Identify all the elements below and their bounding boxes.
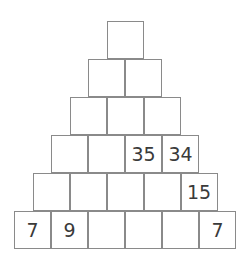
pyramid-cell[interactable] bbox=[144, 97, 181, 135]
pyramid-cell[interactable] bbox=[88, 59, 125, 97]
pyramid-cell[interactable] bbox=[88, 135, 125, 173]
pyramid-cell[interactable] bbox=[51, 135, 88, 173]
pyramid-cell[interactable] bbox=[88, 211, 125, 249]
pyramid-cell[interactable]: 7 bbox=[199, 211, 236, 249]
pyramid-cell[interactable] bbox=[107, 97, 144, 135]
number-pyramid: 353415797 bbox=[0, 0, 249, 265]
pyramid-cell[interactable] bbox=[125, 59, 162, 97]
pyramid-cell[interactable] bbox=[144, 173, 181, 211]
pyramid-cell[interactable]: 7 bbox=[14, 211, 51, 249]
pyramid-cell[interactable]: 15 bbox=[181, 173, 218, 211]
pyramid-cell[interactable] bbox=[70, 97, 107, 135]
pyramid-cell[interactable] bbox=[125, 211, 162, 249]
pyramid-cell[interactable]: 35 bbox=[125, 135, 162, 173]
pyramid-cell[interactable]: 34 bbox=[162, 135, 199, 173]
pyramid-cell[interactable] bbox=[70, 173, 107, 211]
pyramid-cell[interactable] bbox=[162, 211, 199, 249]
pyramid-cell[interactable] bbox=[33, 173, 70, 211]
pyramid-cell[interactable] bbox=[107, 173, 144, 211]
pyramid-cell[interactable]: 9 bbox=[51, 211, 88, 249]
pyramid-cell[interactable] bbox=[107, 21, 144, 59]
